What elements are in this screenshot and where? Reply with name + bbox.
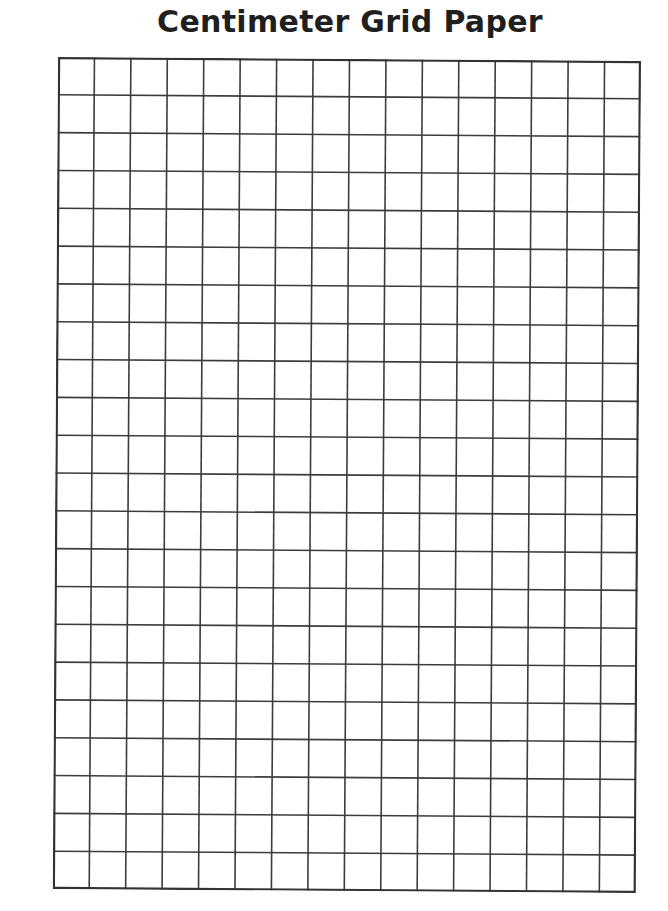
centimeter-grid	[53, 57, 641, 893]
grid-lines	[53, 57, 641, 893]
page-title: Centimeter Grid Paper	[0, 4, 668, 39]
